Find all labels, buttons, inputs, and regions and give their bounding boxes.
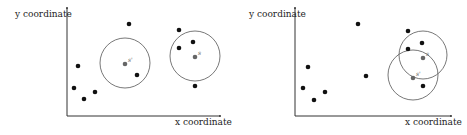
- panel-right: y coordinatex coordinatess': [248, 7, 462, 127]
- data-point: [177, 46, 182, 51]
- data-point: [72, 86, 77, 91]
- data-point: [420, 41, 425, 46]
- point-label: s: [426, 50, 429, 57]
- data-point: [421, 84, 426, 89]
- center-point: [411, 76, 416, 81]
- panel-left: y coordinatex coordinates's: [14, 7, 232, 127]
- center-point: [193, 55, 198, 60]
- data-point: [191, 40, 196, 45]
- data-point: [177, 28, 182, 33]
- data-point: [127, 22, 132, 27]
- center-point: [123, 62, 128, 67]
- y-axis-label: y coordinate: [14, 9, 72, 19]
- data-point: [323, 90, 328, 95]
- point-label: s': [416, 70, 421, 77]
- data-point: [193, 84, 198, 89]
- data-point: [93, 90, 98, 95]
- data-point: [312, 98, 317, 103]
- center-point: [421, 56, 426, 61]
- data-point: [82, 97, 87, 102]
- data-point: [406, 47, 411, 52]
- data-point: [364, 74, 369, 79]
- neighborhood-circle: [399, 31, 447, 79]
- point-label: s': [128, 56, 133, 63]
- data-point: [406, 29, 411, 34]
- y-axis-label: y coordinate: [248, 9, 306, 19]
- neighborhood-circle: [388, 50, 438, 100]
- data-point: [135, 73, 140, 78]
- data-point: [306, 65, 311, 70]
- diagram-canvas: y coordinatex coordinates'sy coordinatex…: [0, 0, 467, 135]
- data-point: [301, 86, 306, 91]
- point-label: s: [198, 49, 201, 56]
- data-point: [356, 22, 361, 27]
- x-axis-label: x coordinate: [405, 117, 462, 127]
- x-axis-label: x coordinate: [175, 117, 232, 127]
- data-point: [76, 64, 81, 69]
